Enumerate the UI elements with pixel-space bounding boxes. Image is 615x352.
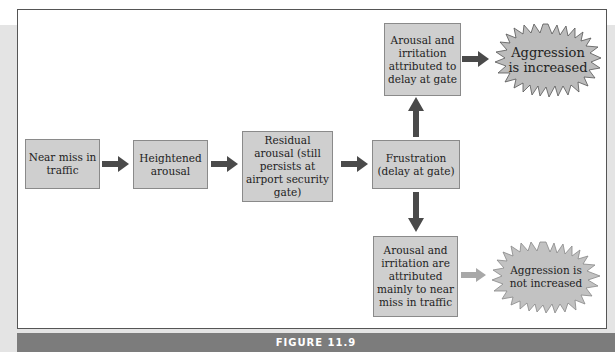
arrow-right-icon [211,155,239,173]
node-frustration: Frustration (delay at gate) [372,140,460,189]
arrow-right-icon [102,155,130,173]
arrow-right-icon [341,155,369,173]
figure-caption: FIGURE 11.9 [17,333,615,352]
node-residual-arousal: Residual arousal (still persists at airp… [242,131,333,202]
node-near-miss: Near miss in traffic [25,139,100,189]
aggression-increased-label: Aggression is increased [508,34,588,86]
arrow-down-icon [407,192,425,232]
node-attributed-gate: Arousal and irritation attributed to del… [384,23,461,96]
node-attributed-traffic: Arousal and irritation are attributed ma… [373,236,458,317]
arrow-up-icon [407,97,425,137]
node-heightened-arousal: Heightened arousal [133,140,208,189]
aggression-not-increased-label: Aggression is not increased [505,256,587,298]
arrow-right-icon [462,50,490,68]
arrow-right-light-icon [461,267,487,283]
